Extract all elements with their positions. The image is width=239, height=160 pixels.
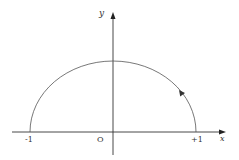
y-axis — [111, 12, 116, 155]
origin-label: O — [97, 135, 104, 144]
y-axis-arrow-icon — [111, 12, 116, 19]
x-axis-label: x — [220, 134, 225, 143]
semicircle-diagram: y x -1 O +1 — [0, 0, 239, 160]
y-axis-label: y — [98, 8, 105, 18]
tick-label-right: +1 — [191, 135, 203, 144]
tick-label-left: -1 — [25, 135, 33, 144]
x-axis — [12, 130, 226, 135]
